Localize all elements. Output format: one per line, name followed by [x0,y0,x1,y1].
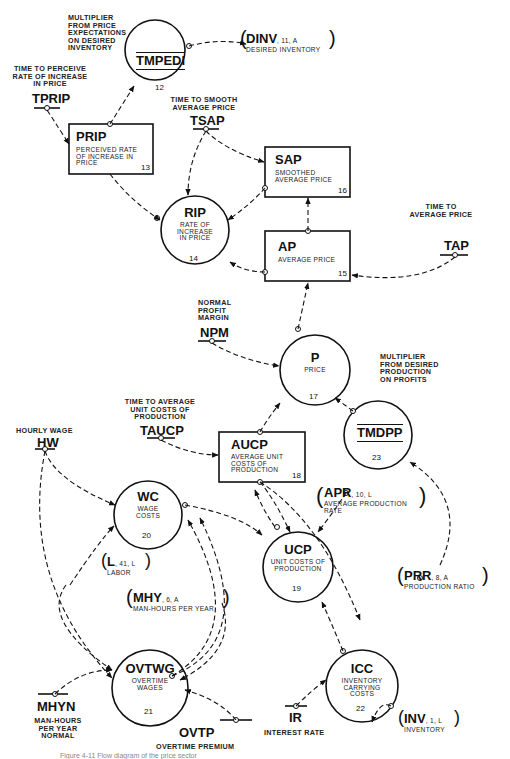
const-tap-code[interactable]: TAP [444,239,469,253]
node-ucp[interactable]: UCP UNIT COSTS OF PRODUCTION [263,543,333,572]
node-wc[interactable]: WC WAGE COSTS [118,490,178,519]
node-ap[interactable]: AP AVERAGE PRICE [278,240,335,264]
node-tmpedi-code[interactable]: TMPEDI [136,52,185,70]
const-tsap-label: TIME TO SMOOTH AVERAGE PRICE [165,96,243,111]
const-hw-label: HOURLY WAGE [16,427,73,435]
node-tmpedi-shape [125,20,185,80]
const-ovtp-code[interactable]: OVTP [179,726,214,740]
node-sap-number: 16 [338,187,347,195]
ref-dinv[interactable]: ( DINV, 11, A DESIRED INVENTORY ) [246,30,320,54]
const-mhyn-label: MAN-HOURS PER YEAR NORMAL [28,717,88,740]
ref-mhy[interactable]: ( MHY, 6, A MAN-HOURS PER YEAR ) [133,589,214,613]
node-rip[interactable]: RIP RATE OF INCREASE IN PRICE [165,206,225,242]
node-ovtwg-number: 21 [144,708,153,716]
const-tprip-code[interactable]: TPRIP [32,92,70,106]
ref-prr[interactable]: ( PRR, 8, A PRODUCTION RATIO ) [404,567,475,591]
node-tmdpp-number: 23 [372,454,381,462]
node-prip[interactable]: PRIP PERCEIVED RATE OF INCREASE IN PRICE [76,130,137,167]
const-hw-code[interactable]: HW [37,436,59,450]
ref-apr[interactable]: ( APR, 10, L AVERAGE PRODUCTION RATE ) [324,484,407,515]
node-p[interactable]: P PRICE [285,351,345,374]
node-ovtwg[interactable]: OVTWG OVERTIME WAGES [115,662,185,691]
figure-caption: Figure 4-11 Flow diagram of the price se… [60,752,197,759]
tmdpp-annotation: MULTIPLIER FROM DESIRED PRODUCTION ON PR… [380,353,439,383]
tmpedi-annotation: MULTIPLIER FROM PRICE EXPECTATIONS ON DE… [68,14,126,52]
const-taucp-label: TIME TO AVERAGE UNIT COSTS OF PRODUCTION [110,398,210,421]
node-sap[interactable]: SAP SMOOTHED AVERAGE PRICE [275,153,332,183]
node-p-number: 17 [309,393,318,401]
const-tap-label: TIME TO AVERAGE PRICE [404,203,478,218]
node-ucp-number: 19 [292,585,301,593]
node-aucp[interactable]: AUCP AVERAGE UNIT COSTS OF PRODUCTION [231,438,283,474]
node-ap-number: 15 [338,270,347,278]
node-icc-number: 22 [356,705,365,713]
node-wc-number: 20 [142,532,151,540]
node-prip-number: 13 [141,164,150,172]
const-taucp-code[interactable]: TAUCP [140,424,184,438]
node-aucp-number: 18 [292,472,301,480]
const-ir-label: INTEREST RATE [264,729,324,737]
const-mhyn-code[interactable]: MHYN [37,700,75,714]
const-ovtp-label: OVERTIME PREMIUM [156,743,234,751]
node-tmpedi-number: 12 [155,84,164,92]
node-rip-number: 14 [189,255,198,263]
ref-l[interactable]: ( L, 41, L LABOR ) [107,553,135,577]
const-npm-label: NORMAL PROFIT MARGIN [198,299,231,322]
node-icc[interactable]: ICC INVENTORY CARRYING COSTS [327,662,397,698]
const-ir-code[interactable]: IR [289,711,302,725]
node-tmdpp-code[interactable]: TMDPP [357,424,403,442]
ref-inv[interactable]: ( INV, 1, L INVENTORY ) [404,710,445,734]
const-tprip-label: TIME TO PERCEIVE RATE OF INCREASE IN PRI… [6,65,94,88]
const-npm-code[interactable]: NPM [200,326,229,340]
const-tsap-code[interactable]: TSAP [190,114,225,128]
